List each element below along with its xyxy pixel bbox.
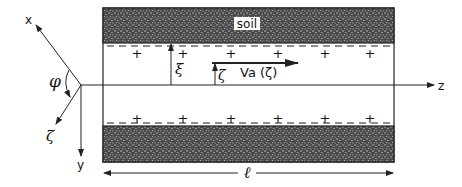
soil-bottom-band	[103, 126, 394, 162]
svg-text:+: +	[365, 111, 376, 126]
svg-text:+: +	[320, 111, 331, 126]
diagram-canvas: soil + + + + + + + + + + + + z x y ζ φ ξ…	[0, 0, 462, 187]
velocity-label: Va (ζ)	[240, 65, 277, 80]
phi-angle-arc	[66, 70, 70, 97]
plus-charges-bottom: + + + + + +	[132, 111, 376, 126]
svg-text:+: +	[273, 46, 284, 61]
z-axis-label: z	[438, 79, 444, 93]
zeta-label: ζ	[218, 67, 227, 83]
phi-label: φ	[49, 71, 61, 91]
soil-label: soil	[237, 17, 257, 31]
y-axis-label: y	[77, 158, 84, 172]
svg-text:+: +	[178, 111, 189, 126]
svg-text:+: +	[132, 111, 143, 126]
svg-text:+: +	[178, 46, 189, 61]
svg-text:+: +	[365, 46, 376, 61]
xi-label: ξ	[175, 60, 184, 78]
svg-text:+: +	[132, 46, 143, 61]
length-label: ℓ	[244, 163, 251, 182]
svg-text:+: +	[226, 46, 237, 61]
zeta-axis-label: ζ	[46, 127, 55, 145]
svg-text:+: +	[226, 111, 237, 126]
plus-charges-top: + + + + + +	[132, 46, 376, 61]
svg-text:+: +	[273, 111, 284, 126]
svg-text:+: +	[320, 46, 331, 61]
x-axis-label: x	[25, 13, 32, 27]
